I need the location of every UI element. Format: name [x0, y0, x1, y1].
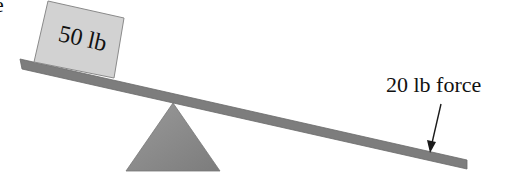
- fulcrum-triangle: [126, 103, 220, 171]
- force-label: 20 lb force: [386, 72, 481, 97]
- lever-diagram: e 50 lb 20 lb force: [0, 0, 526, 191]
- force-arrow-icon: [427, 104, 441, 153]
- corner-glyph: e: [0, 0, 4, 17]
